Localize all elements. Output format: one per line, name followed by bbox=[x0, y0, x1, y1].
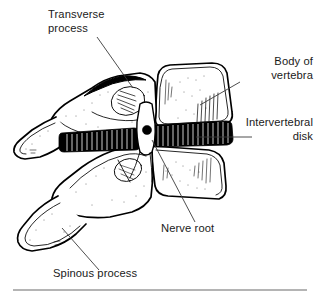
label-nerve-root: Nerve root bbox=[161, 222, 215, 234]
label-transverse-process-line2: process bbox=[48, 22, 88, 34]
upper-vertebral-body bbox=[155, 63, 232, 128]
label-body-of-vertebra-line1: Body of bbox=[274, 55, 313, 67]
label-intervertebral-disk-line1: Intervertebral bbox=[246, 116, 313, 128]
lower-vertebral-body bbox=[152, 146, 226, 199]
label-intervertebral-disk-line2: disk bbox=[293, 130, 314, 142]
vertebra-diagram: Transverse process Body of vertebra Inte… bbox=[0, 0, 321, 300]
label-body-of-vertebra-line2: vertebra bbox=[271, 69, 314, 81]
label-spinous-process: Spinous process bbox=[53, 267, 138, 279]
nerve-root-marker bbox=[142, 125, 151, 134]
figure-container: Transverse process Body of vertebra Inte… bbox=[0, 0, 321, 300]
label-transverse-process-line1: Transverse bbox=[48, 8, 105, 20]
